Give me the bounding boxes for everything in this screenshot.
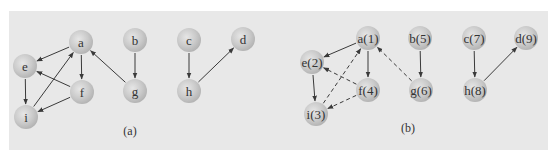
node-label: g — [132, 84, 139, 99]
edge-f-to-e-b — [324, 68, 357, 84]
edge-a-to-e-a — [37, 47, 69, 61]
node-e-b: e(2) — [300, 50, 324, 74]
node-i-b: i(3) — [304, 102, 328, 126]
node-label: d — [240, 32, 247, 47]
panel-caption-a: (a) — [123, 124, 136, 138]
node-label: b(5) — [409, 31, 431, 46]
edge-f-to-i-b — [328, 95, 356, 108]
node-f-b: f(4) — [356, 78, 380, 102]
node-a-b: a(1) — [356, 26, 380, 50]
node-c-b: c(7) — [462, 26, 486, 50]
node-i-a: i — [14, 105, 38, 129]
panel-caption-b: (b) — [401, 121, 415, 135]
edges-layer — [25, 43, 517, 112]
node-g-b: g(6) — [409, 78, 433, 102]
node-label: i(3) — [307, 107, 326, 122]
edge-c-to-h-b — [474, 51, 475, 77]
edge-i-to-a-b — [323, 49, 360, 104]
edge-f-to-i-a — [38, 97, 70, 111]
graph-figure: abcdefghia(1)b(5)c(7)d(9)e(2)f(4)g(6)h(8… — [0, 0, 553, 162]
edge-h-to-d-b — [484, 47, 517, 80]
node-b-a: b — [123, 28, 147, 52]
node-label: b — [132, 33, 139, 48]
node-label: f — [80, 85, 85, 100]
node-label: i — [24, 110, 28, 125]
nodes-layer: abcdefghia(1)b(5)c(7)d(9)e(2)f(4)g(6)h(8… — [13, 26, 538, 129]
node-d-a: d — [231, 27, 255, 51]
node-label: c(7) — [464, 31, 485, 46]
edge-a-to-e-b — [324, 43, 356, 57]
node-label: a — [78, 35, 84, 50]
node-c-a: c — [177, 28, 201, 52]
edge-h-to-d-a — [198, 48, 233, 82]
node-a-a: a — [69, 30, 93, 54]
edge-e-to-i-b — [313, 75, 315, 101]
node-h-b: h(8) — [463, 78, 487, 102]
edge-g-to-a-a — [91, 51, 126, 83]
node-label: c — [186, 33, 192, 48]
node-d-b: d(9) — [514, 26, 538, 50]
node-label: h(8) — [464, 83, 486, 98]
node-h-a: h — [177, 79, 201, 103]
node-label: f(4) — [358, 83, 378, 98]
node-f-a: f — [70, 80, 94, 104]
edge-g-to-a-b — [377, 47, 411, 81]
node-label: d(9) — [515, 31, 537, 46]
node-e-a: e — [13, 54, 37, 78]
edge-b-to-g-b — [420, 51, 421, 77]
node-label: e — [22, 59, 28, 74]
captions-layer: (a)(b) — [123, 121, 415, 138]
node-b-b: b(5) — [408, 26, 432, 50]
node-g-a: g — [123, 79, 147, 103]
node-label: g(6) — [410, 83, 432, 98]
node-label: e(2) — [302, 55, 323, 70]
node-label: a(1) — [358, 31, 379, 46]
node-label: h — [186, 84, 193, 99]
